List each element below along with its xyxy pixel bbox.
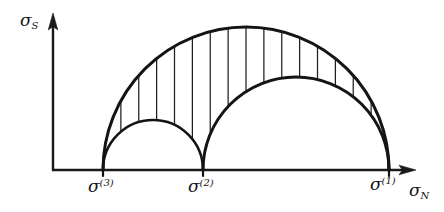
- tick-label-sigma-1: σ(1): [370, 176, 396, 193]
- small-circle-arc: [103, 120, 203, 170]
- x-axis-label-subscript: N: [421, 190, 430, 201]
- x-axis-label: σN: [409, 182, 429, 201]
- mohr-circle-figure: σS σ(3) σ(2) σ(1) σN: [0, 0, 444, 212]
- x-axis-label-base: σ: [409, 180, 421, 200]
- medium-circle-arc: [203, 77, 389, 170]
- tick-label-sigma-2: σ(2): [188, 178, 214, 195]
- y-axis-label: σS: [20, 12, 38, 31]
- tick-label-sigma-2-base: σ: [188, 176, 200, 196]
- tick-label-sigma-2-superscript: (2): [200, 177, 214, 188]
- tick-label-sigma-3-superscript: (3): [100, 177, 114, 188]
- tick-label-sigma-3: σ(3): [88, 178, 114, 195]
- hatching-group: [121, 28, 371, 138]
- y-axis-label-base: σ: [20, 10, 32, 30]
- tick-label-sigma-3-base: σ: [88, 176, 100, 196]
- tick-label-sigma-1-superscript: (1): [382, 175, 396, 186]
- tick-label-sigma-1-base: σ: [370, 174, 382, 194]
- y-axis-label-subscript: S: [32, 20, 39, 31]
- tick-marks-group: [103, 160, 389, 176]
